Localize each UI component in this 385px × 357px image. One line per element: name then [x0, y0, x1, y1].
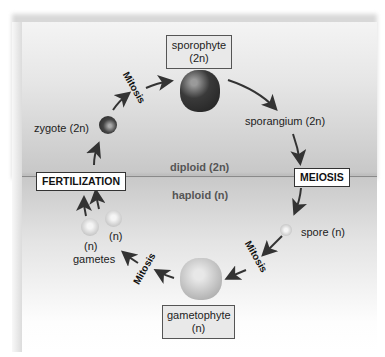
arrow-meiosis-to-spore-icon: [295, 188, 301, 212]
gamete-sphere-icon: [105, 210, 122, 227]
arrow-mitosis-to-gametes-icon: [124, 253, 138, 263]
zygote-sphere-icon: [99, 116, 117, 134]
sporangium-label: sporangium (2n): [245, 115, 325, 128]
sporophyte-label: sporophyte: [171, 39, 227, 52]
spore-sphere-icon: [280, 224, 292, 236]
fertilization-box: FERTILIZATION: [36, 172, 126, 191]
gametophyte-cell-cluster-icon: [180, 258, 222, 300]
gametophyte-label: gametophyte: [167, 309, 230, 322]
meiosis-box: MEIOSIS: [294, 168, 350, 187]
arrow-gametophyte-to-mitosis-icon: [157, 271, 174, 278]
sporophyte-box: sporophyte (2n): [166, 35, 232, 69]
diploid-region-label: diploid (2n): [170, 161, 229, 173]
zygote-label: zygote (2n): [34, 122, 89, 135]
arrow-sporangium-to-meiosis-icon: [293, 134, 300, 162]
arrow-sporophyte-to-sporangium-icon: [228, 80, 275, 108]
spore-label: spore (n): [301, 226, 345, 239]
sporophyte-ploidy: (2n): [171, 52, 227, 65]
gamete-ploidy-label: (n): [84, 240, 97, 253]
arrow-spore-to-mitosis-icon: [264, 236, 282, 254]
arrow-fertilization-to-zygote-icon: [94, 145, 98, 165]
gamete-ploidy-label: (n): [109, 230, 122, 243]
gametes-label: gametes: [73, 253, 115, 266]
arrow-gamete1-up-icon: [84, 199, 86, 216]
sporophyte-cell-cluster-icon: [180, 70, 220, 112]
arrow-mitosis-to-gametophyte-icon: [228, 270, 246, 278]
gamete-sphere-icon: [81, 218, 99, 236]
arrow-gamete2-up-icon: [96, 192, 99, 209]
arrow-zygote-to-mitosis-icon: [113, 94, 128, 110]
arrow-mitosis-to-sporophyte-icon: [146, 81, 170, 88]
gametophyte-box: gametophyte (n): [162, 305, 235, 339]
haploid-region-label: haploid (n): [172, 189, 228, 201]
gametophyte-ploidy: (n): [167, 322, 230, 335]
